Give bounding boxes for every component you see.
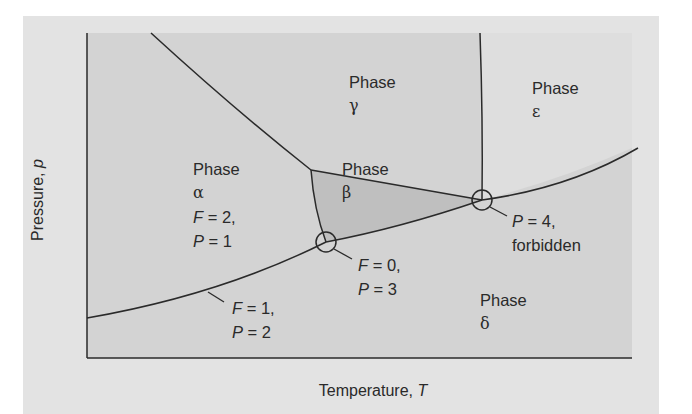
x-axis-label: Temperature, T [319,382,428,400]
phase-diagram-plot [0,0,692,414]
annotation-triple-point: F = 0, P = 3 [358,253,401,301]
label-phase-epsilon: Phase ε [532,76,579,124]
label-phase-alpha: Phase α F = 2, P = 1 [193,157,240,253]
label-phase-gamma: Phase γ [349,70,396,118]
y-axis-label: Pressure, p [29,159,47,241]
label-phase-beta: Phase β [342,157,389,205]
annotation-two-phase: F = 1, P = 2 [232,296,275,344]
label-phase-delta: Phase δ [480,288,527,336]
annotation-quadruple-point: P = 4, forbidden [512,209,581,257]
